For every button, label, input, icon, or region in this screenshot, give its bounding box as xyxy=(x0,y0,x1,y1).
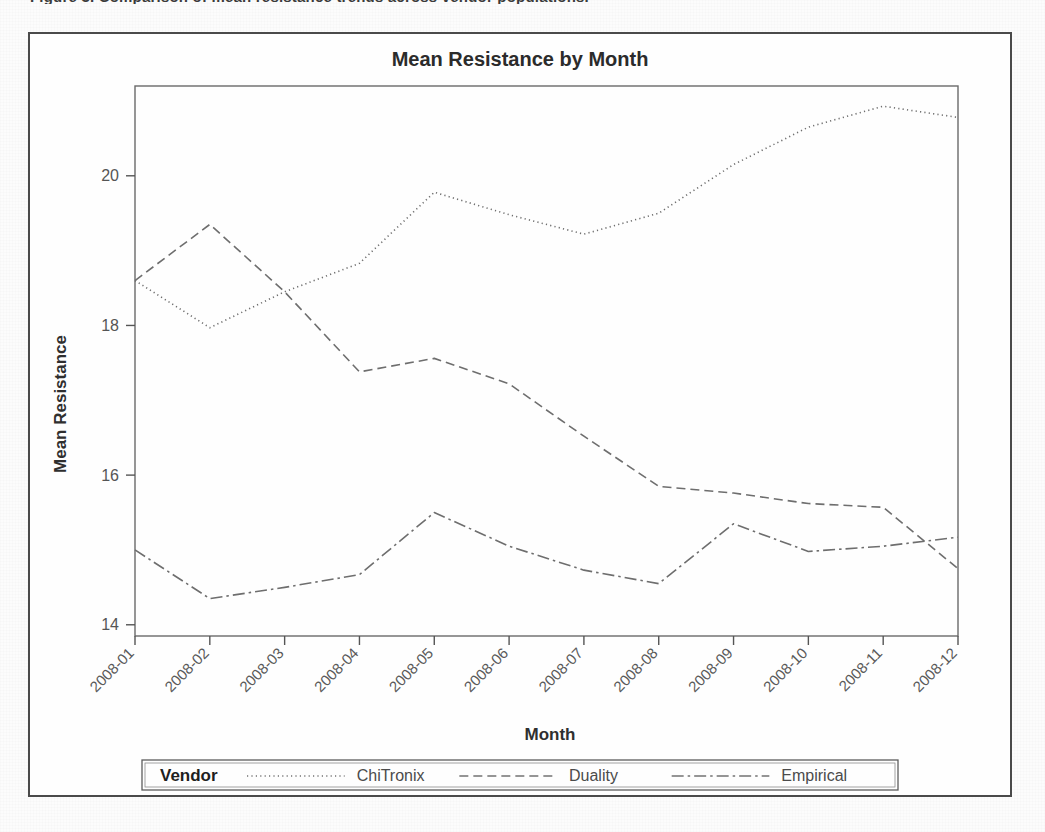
x-tick-label: 2008-12 xyxy=(909,644,960,695)
mean-resistance-line-chart: Mean Resistance by Month Mean Resistance… xyxy=(30,34,1010,795)
x-tick-label: 2008-09 xyxy=(685,644,736,695)
x-tick-label: 2008-02 xyxy=(161,644,212,695)
x-tick-label: 2008-05 xyxy=(385,644,436,695)
legend-label-empirical[interactable]: Empirical xyxy=(781,767,847,784)
series-line-empirical xyxy=(135,513,958,599)
chart-title: Mean Resistance by Month xyxy=(392,48,649,70)
x-axis-title: Month xyxy=(525,725,576,744)
legend-label-duality[interactable]: Duality xyxy=(569,767,618,784)
x-tick-label: 2008-10 xyxy=(760,644,811,695)
x-tick-label: 2008-06 xyxy=(460,644,511,695)
x-tick-label: 2008-04 xyxy=(311,644,362,695)
y-tick-label: 20 xyxy=(101,167,119,184)
x-tick-label: 2008-07 xyxy=(535,644,586,695)
chart-legend[interactable]: VendorChiTronixDualityEmpirical xyxy=(142,760,898,790)
legend-title: Vendor xyxy=(160,766,218,785)
series-line-duality xyxy=(135,224,958,568)
data-series-group xyxy=(135,106,958,598)
x-tick-label: 2008-11 xyxy=(835,644,885,694)
x-tick-label: 2008-01 xyxy=(86,644,137,695)
y-axis-title: Mean Resistance xyxy=(51,335,70,473)
x-tick-label: 2008-08 xyxy=(610,644,661,695)
y-tick-label: 14 xyxy=(101,616,119,633)
legend-label-chitronix[interactable]: ChiTronix xyxy=(357,767,425,784)
figure-frame: Mean Resistance by Month Mean Resistance… xyxy=(28,32,1012,797)
y-axis-ticks: 14161820 xyxy=(101,167,135,633)
clipped-caption-text: Figure 3. Comparison of mean resistance … xyxy=(30,0,1010,4)
x-tick-label: 2008-03 xyxy=(236,644,287,695)
y-tick-label: 16 xyxy=(101,467,119,484)
plot-area-frame xyxy=(135,86,958,636)
x-axis-ticks: 2008-012008-022008-032008-042008-052008-… xyxy=(86,636,960,695)
y-tick-label: 18 xyxy=(101,317,119,334)
series-line-chitronix xyxy=(135,106,958,328)
